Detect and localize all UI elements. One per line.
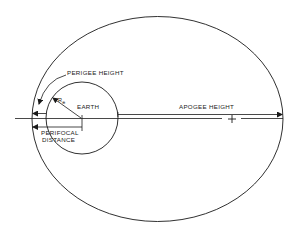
perifocal-distance-label-line2: DISTANCE — [42, 136, 75, 143]
ellipse-center-plus-icon — [228, 115, 236, 123]
perifocal-distance-label-line1: PERIFOCAL — [41, 129, 79, 136]
earth-symbol-icon: ⊕ — [62, 100, 65, 105]
earth-radius-label: R⊕ — [58, 97, 66, 106]
earth-label: EARTH — [77, 103, 99, 110]
orbit-ellipse — [32, 17, 283, 222]
orbit-diagram — [0, 0, 297, 229]
apogee-height-label: APOGEE HEIGHT — [179, 103, 234, 110]
perigee-height-label: PERIGEE HEIGHT — [67, 69, 124, 76]
